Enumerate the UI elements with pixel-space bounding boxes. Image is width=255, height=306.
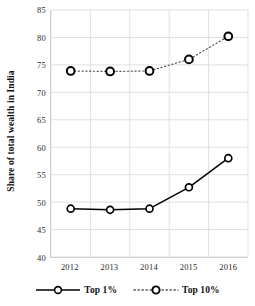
data-point-marker [67, 205, 74, 212]
y-tick-label: 40 [37, 253, 46, 263]
y-tick-label: 45 [37, 225, 46, 235]
plot-wrapper: 40455055606570758085 2012201320142015201… [22, 10, 255, 268]
data-point-marker [106, 68, 114, 76]
data-series-layer [51, 10, 248, 257]
legend-label-top-1: Top 1% [84, 285, 117, 295]
x-tick-label: 2013 [100, 262, 118, 272]
data-point-marker [224, 32, 232, 40]
y-tick-label: 85 [37, 5, 46, 15]
data-point-marker [67, 67, 75, 75]
data-point-marker [185, 56, 193, 64]
x-axis-tick-labels: 20122013201420152016 [50, 258, 248, 276]
data-point-marker [146, 67, 154, 75]
y-axis-title-text: Share of total wealth in India [6, 70, 16, 191]
legend-item-top-1[interactable]: Top 1% [35, 284, 117, 296]
x-tick-label: 2012 [61, 262, 79, 272]
y-tick-label: 60 [37, 143, 46, 153]
series-line-1 [71, 158, 229, 210]
y-tick-label: 70 [37, 88, 46, 98]
y-tick-label: 80 [37, 33, 46, 43]
legend-item-top-10[interactable]: Top 10% [133, 284, 220, 296]
chart-figure: Share of total wealth in India 404550556… [0, 0, 255, 306]
legend-sample-dotted-line-marker [133, 284, 179, 296]
plot-area [50, 10, 248, 258]
x-tick-label: 2014 [140, 262, 158, 272]
x-tick-label: 2016 [219, 262, 237, 272]
data-point-marker [185, 184, 192, 191]
x-tick-label: 2015 [180, 262, 198, 272]
y-tick-label: 50 [37, 198, 46, 208]
data-point-marker [225, 155, 232, 162]
y-tick-label: 65 [37, 115, 46, 125]
legend-sample-solid-line-marker [35, 284, 81, 296]
y-axis-tick-labels: 40455055606570758085 [22, 10, 49, 268]
chart-legend: Top 1% Top 10% [0, 276, 255, 304]
y-tick-label: 55 [37, 170, 46, 180]
y-axis-title: Share of total wealth in India [0, 0, 22, 262]
y-tick-label: 75 [37, 60, 46, 70]
data-point-marker [107, 206, 114, 213]
legend-label-top-10: Top 10% [182, 285, 220, 295]
data-point-marker [146, 205, 153, 212]
